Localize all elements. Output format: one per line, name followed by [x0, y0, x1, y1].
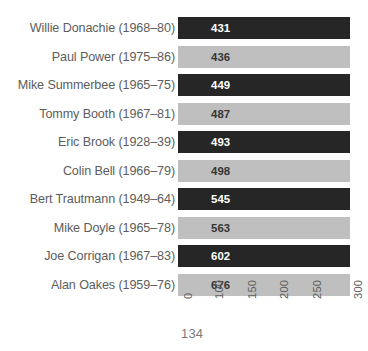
chart-row: Paul Power (1975–86)436 — [0, 43, 368, 72]
bar[interactable] — [178, 217, 350, 239]
bar[interactable] — [178, 74, 350, 96]
bar-track: 436 — [178, 43, 368, 72]
bar-track: 487 — [178, 100, 368, 129]
category-label: Colin Bell (1966–79) — [0, 164, 178, 178]
bar[interactable] — [178, 160, 350, 182]
bar[interactable] — [178, 17, 350, 39]
category-label: Paul Power (1975–86) — [0, 50, 178, 64]
bar[interactable] — [178, 188, 350, 210]
bar-track: 449 — [178, 71, 368, 100]
category-label: Alan Oakes (1959–76) — [0, 278, 178, 292]
bar-track: 676 — [178, 271, 368, 300]
page-number: 134 — [181, 326, 203, 341]
bar[interactable] — [178, 131, 350, 153]
bar-value-label: 602 — [211, 245, 230, 267]
bar-value-label: 545 — [211, 188, 230, 210]
x-axis-tick-label: 200 — [278, 280, 290, 299]
bar-value-label: 449 — [211, 74, 230, 96]
chart-row: Mike Summerbee (1965–75)449 — [0, 71, 368, 100]
bar-track: 493 — [178, 128, 368, 157]
category-label: Eric Brook (1928–39) — [0, 135, 178, 149]
bar-value-label: 493 — [211, 131, 230, 153]
bar-chart-figure: Willie Donachie (1968–80)431Paul Power (… — [0, 0, 368, 351]
bar-value-label: 436 — [211, 46, 230, 68]
bar-track: 545 — [178, 185, 368, 214]
bar-track: 498 — [178, 157, 368, 186]
x-axis-tick-label: 300 — [352, 280, 364, 299]
category-label: Mike Summerbee (1965–75) — [0, 78, 178, 92]
bar-track: 602 — [178, 242, 368, 271]
category-label: Tommy Booth (1967–81) — [0, 107, 178, 121]
chart-plot-area: Willie Donachie (1968–80)431Paul Power (… — [0, 14, 368, 299]
bar-value-label: 431 — [211, 17, 230, 39]
x-axis-tick-label: 250 — [311, 280, 323, 299]
chart-row: Mike Doyle (1965–78)563 — [0, 214, 368, 243]
bar-track: 563 — [178, 214, 368, 243]
chart-row: Colin Bell (1966–79)498 — [0, 157, 368, 186]
category-label: Willie Donachie (1968–80) — [0, 21, 178, 35]
category-label: Joe Corrigan (1967–83) — [0, 249, 178, 263]
bar-value-label: 487 — [211, 103, 230, 125]
chart-row: Bert Trautmann (1949–64)545 — [0, 185, 368, 214]
bar[interactable] — [178, 245, 350, 267]
bar[interactable] — [178, 46, 350, 68]
bar[interactable] — [178, 103, 350, 125]
bar-track: 431 — [178, 14, 368, 43]
x-axis-tick-label: 100 — [213, 280, 225, 299]
chart-row: Tommy Booth (1967–81)487 — [0, 100, 368, 129]
chart-row: Eric Brook (1928–39)493 — [0, 128, 368, 157]
x-axis-tick-label: 0 — [182, 293, 194, 299]
category-label: Bert Trautmann (1949–64) — [0, 192, 178, 206]
bar-value-label: 498 — [211, 160, 230, 182]
x-axis-tick-label: 150 — [246, 280, 258, 299]
chart-row: Willie Donachie (1968–80)431 — [0, 14, 368, 43]
bar-value-label: 563 — [211, 217, 230, 239]
category-label: Mike Doyle (1965–78) — [0, 221, 178, 235]
chart-row: Joe Corrigan (1967–83)602 — [0, 242, 368, 271]
bar[interactable] — [178, 274, 350, 296]
